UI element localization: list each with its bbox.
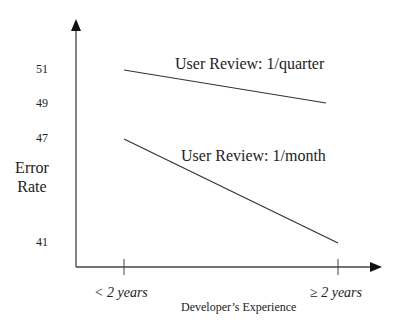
x-axis-arrow-icon (370, 262, 382, 272)
series-label-quarter: User Review: 1/quarter (175, 55, 324, 73)
y-tick-label-51: 51 (36, 62, 48, 77)
y-axis-title-line1: Error (12, 158, 52, 177)
x-axis-title: Developer’s Experience (181, 300, 296, 315)
y-axis-arrow-icon (71, 19, 81, 31)
series-label-month: User Review: 1/month (181, 147, 326, 165)
y-tick-label-41: 41 (36, 235, 48, 250)
x-tick-label-0: < 2 years (94, 285, 148, 301)
y-axis-title-line2: Rate (12, 177, 52, 196)
y-tick-label-49: 49 (36, 96, 48, 111)
x-tick-label-1: ≥ 2 years (310, 285, 362, 301)
y-tick-label-47: 47 (36, 131, 48, 146)
series-quarter-line (124, 70, 326, 103)
y-axis-title: Error Rate (12, 158, 52, 196)
